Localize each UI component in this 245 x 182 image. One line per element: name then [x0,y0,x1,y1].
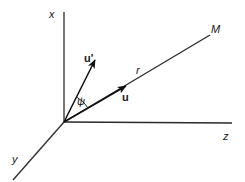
y-axis [13,122,64,180]
z-axis-label: z [222,130,229,142]
distance-r-label: r [136,64,141,76]
z-axis [64,122,232,123]
vector-u-label: u [122,91,129,103]
vector-u-prime-label: u' [84,52,94,64]
point-m-label: M [211,23,221,35]
y-axis-label: y [11,153,19,165]
angle-psi-label: ψ [77,95,85,107]
coordinate-diagram: x z y M r u' u ψ [0,0,245,182]
x-axis-label: x [48,8,55,20]
